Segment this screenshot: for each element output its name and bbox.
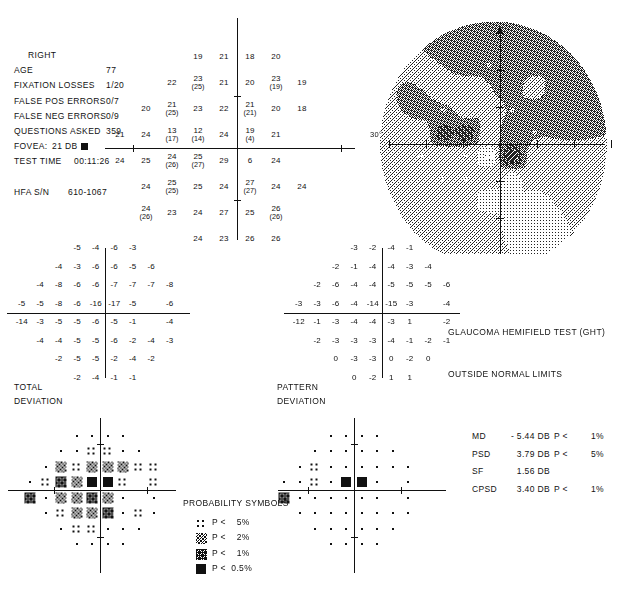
param-false-pos-errors-value: 0/7 xyxy=(106,96,119,106)
pattern-deviation-symbol-level-0 xyxy=(344,465,348,469)
grayscale-canvas xyxy=(372,22,616,254)
pattern-deviation-cell: 0 xyxy=(333,355,338,363)
threshold-cell: 18 xyxy=(297,105,306,113)
param-false-pos-errors-label: FALSE POS ERRORS xyxy=(14,94,106,109)
legend-item-p05: P < 0.5% xyxy=(183,561,289,577)
index-row-cpsd: CPSD 3.40 DB P < 1% xyxy=(472,481,604,499)
threshold-cell: 25 xyxy=(245,209,254,217)
pattern-deviation-symbol-level-0 xyxy=(360,434,364,438)
index-name-md: MD xyxy=(472,428,502,446)
pattern-deviation-label-line2: DEVIATION xyxy=(277,394,326,408)
legend-item-p2: P < 2% xyxy=(183,530,289,546)
horizontal-axis xyxy=(105,148,355,149)
pattern-deviation-label-line1: PATTERN xyxy=(277,380,326,394)
total-deviation-symbol-level-1 xyxy=(133,508,144,519)
legend-item-p1: P < 1% xyxy=(183,546,289,562)
pattern-deviation-symbol-level-0 xyxy=(329,511,333,515)
pattern-deviation-symbol-level-0 xyxy=(329,496,333,500)
axis-tick xyxy=(308,487,309,494)
index-row-psd: PSD 3.79 DB P < 5% xyxy=(472,446,604,464)
total-deviation-cell: -6 xyxy=(92,318,100,326)
axis-tick xyxy=(97,537,104,538)
threshold-retest: (27) xyxy=(244,187,257,195)
total-deviation-cell: -6 xyxy=(92,281,100,289)
pattern-deviation-symbol-level-0 xyxy=(298,465,302,469)
index-name-psd: PSD xyxy=(472,446,502,464)
pattern-deviation-symbol-level-0 xyxy=(375,434,379,438)
pattern-deviation-symbol-level-0 xyxy=(329,527,333,531)
total-deviation-symbol-level-1 xyxy=(118,477,129,488)
index-value-sf: 1.56 DB xyxy=(502,463,554,481)
pattern-deviation-cell: -15 xyxy=(385,300,397,308)
total-deviation-symbol-level-1 xyxy=(102,446,113,457)
threshold-cell: 24 xyxy=(271,157,280,165)
total-deviation-cell: -6 xyxy=(92,263,100,271)
total-deviation-cell: -4 xyxy=(55,337,63,345)
total-deviation-cell: -4 xyxy=(55,263,63,271)
pattern-deviation-cell: -1 xyxy=(406,337,414,345)
total-deviation-cell: -2 xyxy=(129,337,137,345)
ght-title: GLAUCOMA HEMIFIELD TEST (GHT) xyxy=(448,325,605,339)
index-p-sf xyxy=(554,463,578,481)
total-deviation-symbol-level-2 xyxy=(71,508,82,519)
total-deviation-cell: -3 xyxy=(166,337,174,345)
horizontal-axis xyxy=(278,490,446,491)
pattern-deviation-symbol-level-0 xyxy=(298,511,302,515)
pattern-deviation-cell: -3 xyxy=(406,263,414,271)
pattern-deviation-symbol-level-0 xyxy=(391,449,395,453)
threshold-retest: (27) xyxy=(192,161,205,169)
axis-tick xyxy=(234,200,241,201)
pattern-deviation-cell: -4 xyxy=(369,318,377,326)
pattern-deviation-cell: 0 xyxy=(389,355,394,363)
threshold-cell: 24 xyxy=(297,183,306,191)
total-deviation-symbol-level-2 xyxy=(71,477,82,488)
threshold-cell: 24(26) xyxy=(166,153,179,169)
index-value-md: - 5.44 DB xyxy=(502,428,554,446)
pattern-deviation-cell: -2 xyxy=(406,355,414,363)
total-deviation-symbol-level-0 xyxy=(121,434,125,438)
pattern-deviation-cell: -3 xyxy=(332,337,340,345)
threshold-cell: 23(19) xyxy=(270,75,283,91)
total-deviation-cell: -6 xyxy=(110,263,118,271)
threshold-cell: 25(27) xyxy=(192,153,205,169)
threshold-cell: 24 xyxy=(219,183,228,191)
pattern-deviation-symbol-level-0 xyxy=(313,449,317,453)
threshold-cell: 27 xyxy=(219,209,228,217)
pattern-deviation-symbol-level-0 xyxy=(344,449,348,453)
legend-symbol-p1-icon xyxy=(196,548,210,559)
total-deviation-symbol-level-0 xyxy=(59,527,63,531)
total-deviation-symbol-level-0 xyxy=(152,496,156,500)
total-deviation-cell: -6 xyxy=(110,244,118,252)
total-deviation-symbol-level-1 xyxy=(149,461,160,472)
total-deviation-cell: -2 xyxy=(147,355,155,363)
ght-result: OUTSIDE NORMAL LIMITS xyxy=(448,367,605,381)
horizontal-axis xyxy=(284,313,460,314)
pattern-deviation-cell: -6 xyxy=(332,281,340,289)
total-deviation-cell: -4 xyxy=(166,318,174,326)
param-hfa-serial-value: 610-1067 xyxy=(68,187,107,197)
threshold-cell: 26(26) xyxy=(270,205,283,221)
param-hfa-serial-label: HFA S/N xyxy=(14,185,68,200)
axis-tick xyxy=(54,487,55,494)
total-deviation-symbol-level-2 xyxy=(102,492,113,503)
total-deviation-symbol-level-0 xyxy=(121,511,125,515)
pattern-deviation-cell: -12 xyxy=(293,318,305,326)
total-deviation-symbol-level-1 xyxy=(71,523,82,534)
legend-title: PROBABILITY SYMBOLS xyxy=(183,496,289,512)
index-value-cpsd: 3.40 DB xyxy=(502,481,554,499)
index-row-md: MD - 5.44 DB P < 1% xyxy=(472,428,604,446)
threshold-cell: 25 xyxy=(193,183,202,191)
total-deviation-symbol-level-0 xyxy=(137,527,141,531)
total-deviation-cell: -6 xyxy=(73,281,81,289)
total-deviation-symbol-level-4 xyxy=(87,477,97,487)
pattern-deviation-cell: -1 xyxy=(406,244,414,252)
total-deviation-symbol-level-0 xyxy=(121,542,125,546)
param-fovea-value: 21 DB xyxy=(52,141,78,151)
pattern-deviation-cell: -4 xyxy=(387,244,395,252)
pattern-deviation-cell: -3 xyxy=(369,355,377,363)
total-deviation-cell: -6 xyxy=(73,300,81,308)
threshold-retest: (19) xyxy=(270,83,283,91)
pattern-deviation-symbol-level-0 xyxy=(344,434,348,438)
pattern-deviation-symbol-level-0 xyxy=(375,527,379,531)
total-deviation-cell: -4 xyxy=(92,374,100,382)
